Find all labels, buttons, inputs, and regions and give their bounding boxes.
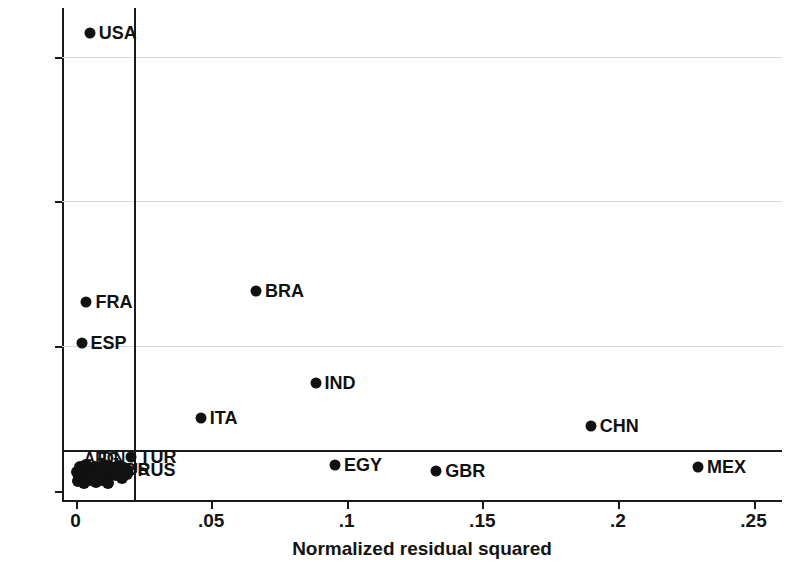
x-tick-mark — [482, 502, 484, 509]
y-tick-mark — [55, 57, 62, 59]
data-point — [585, 421, 596, 432]
point-label: CHN — [600, 416, 639, 437]
x-tick-mark — [76, 502, 78, 509]
point-label: BRA — [265, 281, 304, 302]
x-tick-label: .1 — [339, 510, 355, 532]
data-point — [692, 462, 703, 473]
data-point — [431, 466, 442, 477]
point-label: IND — [325, 373, 356, 394]
point-label: USA — [99, 23, 137, 44]
data-point — [250, 286, 261, 297]
y-tick-mark — [55, 491, 62, 493]
point-label: ITA — [210, 408, 238, 429]
point-label: FRA — [95, 292, 132, 313]
leverage-vs-residual-scatter-figure: Leverage USAFRAESPBRAINDITACHNEGYGBRMEXT… — [0, 0, 792, 568]
x-axis-title: Normalized residual squared — [62, 538, 782, 560]
point-label: GBR — [445, 461, 485, 482]
x-tick-mark — [754, 502, 756, 509]
vertical-reference-line — [134, 8, 136, 500]
x-axis-line — [62, 500, 782, 502]
gridline-y — [62, 201, 782, 202]
x-tick-mark — [618, 502, 620, 509]
x-tick-mark — [347, 502, 349, 509]
gridline-y — [62, 346, 782, 347]
point-label: AUS — [115, 461, 149, 479]
point-label: ESP — [91, 332, 127, 353]
data-point — [310, 378, 321, 389]
y-tick-mark — [55, 346, 62, 348]
point-label: EGY — [344, 455, 382, 476]
plot-area: USAFRAESPBRAINDITACHNEGYGBRMEXTURRUS ARG… — [62, 8, 782, 500]
data-point — [76, 337, 87, 348]
x-tick-mark — [211, 502, 213, 509]
data-point — [81, 297, 92, 308]
y-tick-mark — [55, 201, 62, 203]
x-tick-label: .2 — [610, 510, 626, 532]
x-tick-label: .25 — [740, 510, 766, 532]
point-label: MEX — [707, 457, 746, 478]
data-point — [330, 460, 341, 471]
x-tick-label: .05 — [198, 510, 224, 532]
x-tick-label: .15 — [469, 510, 495, 532]
data-point — [195, 413, 206, 424]
data-point — [84, 28, 95, 39]
gridline-y — [62, 57, 782, 58]
x-tick-label: 0 — [70, 510, 81, 532]
